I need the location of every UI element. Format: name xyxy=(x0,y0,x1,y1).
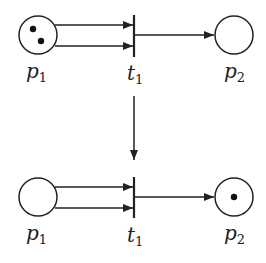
label-p2-after: p2 xyxy=(224,223,245,246)
label-subscript: 1 xyxy=(39,232,47,247)
label-base: t xyxy=(127,223,135,247)
token xyxy=(231,194,237,200)
label-base: p xyxy=(224,59,237,83)
label-t1-before: t1 xyxy=(127,63,143,86)
token xyxy=(38,38,44,44)
label-p1-after: p1 xyxy=(26,223,47,246)
net-before xyxy=(19,15,253,57)
label-subscript: 2 xyxy=(237,70,245,85)
label-subscript: 1 xyxy=(39,70,47,85)
label-base: p xyxy=(26,221,39,245)
label-base: t xyxy=(127,61,135,85)
label-t1-after: t1 xyxy=(127,225,143,248)
petri-net-diagram: p1 t1 p2 p1 t1 p2 xyxy=(0,0,266,263)
label-subscript: 2 xyxy=(237,232,245,247)
label-base: p xyxy=(26,59,39,83)
place-p2-before xyxy=(215,16,253,54)
label-p1-before: p1 xyxy=(26,61,47,84)
token xyxy=(30,26,36,32)
place-p1-before xyxy=(19,16,57,54)
label-p2-before: p2 xyxy=(224,61,245,84)
label-subscript: 1 xyxy=(135,72,143,87)
label-base: p xyxy=(224,221,237,245)
label-subscript: 1 xyxy=(135,234,143,249)
place-p1-after xyxy=(19,178,57,216)
net-after xyxy=(19,177,253,218)
